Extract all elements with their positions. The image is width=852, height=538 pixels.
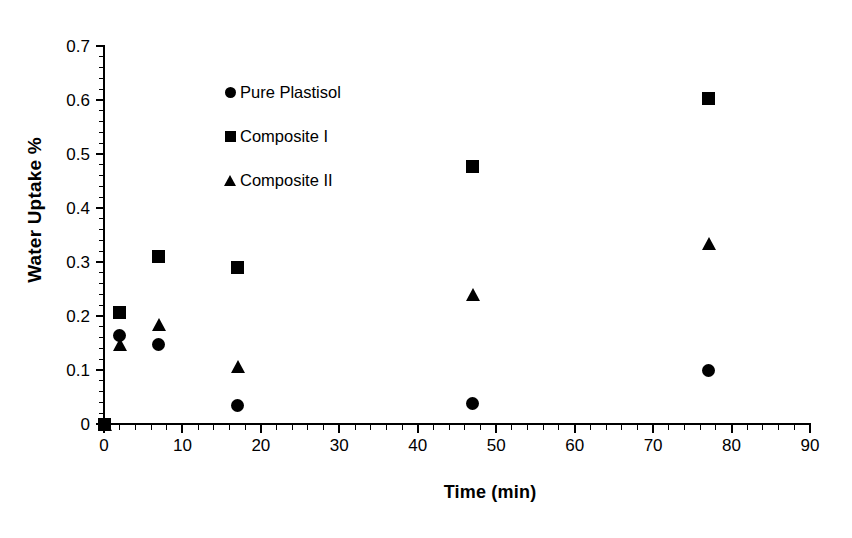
y-axis-minor-tick: [99, 56, 104, 57]
legend-item-label: Pure Plastisol: [240, 83, 341, 102]
x-axis-title: Time (min): [390, 482, 590, 503]
y-axis-tick-label: 0.3: [42, 254, 90, 271]
chart-figure: Water Uptake % Time (min) 00.10.20.30.40…: [0, 0, 852, 538]
y-axis-major-tick: [96, 369, 104, 371]
x-axis-major-tick: [417, 425, 419, 433]
y-axis-major-tick: [96, 315, 104, 317]
x-axis-minor-tick: [323, 425, 324, 430]
x-axis-line: [103, 423, 811, 425]
x-axis-minor-tick: [511, 425, 512, 430]
legend-item[interactable]: Composite II: [222, 158, 341, 202]
x-axis-major-tick: [181, 425, 183, 433]
x-axis-major-tick: [495, 425, 497, 433]
y-axis-minor-tick: [99, 272, 104, 273]
data-point-circle: [231, 399, 244, 412]
y-axis-tick-label: 0.5: [42, 146, 90, 163]
x-axis-tick-label: 40: [395, 437, 441, 454]
data-point-circle: [466, 397, 479, 410]
y-axis-minor-tick: [99, 359, 104, 360]
x-axis-minor-tick: [668, 425, 669, 430]
x-axis-major-tick: [338, 425, 340, 433]
y-axis-minor-tick: [99, 218, 104, 219]
legend-item[interactable]: Composite I: [222, 114, 341, 158]
x-axis-minor-tick: [590, 425, 591, 430]
x-axis-minor-tick: [700, 425, 701, 430]
x-axis-minor-tick: [637, 425, 638, 430]
data-point-square: [152, 250, 165, 263]
x-axis-minor-tick: [433, 425, 434, 430]
x-axis-minor-tick: [480, 425, 481, 430]
x-axis-minor-tick: [449, 425, 450, 430]
y-axis-major-tick: [96, 99, 104, 101]
y-axis-minor-tick: [99, 326, 104, 327]
y-axis-major-tick: [96, 45, 104, 47]
y-axis-minor-tick: [99, 121, 104, 122]
x-axis-major-tick: [652, 425, 654, 433]
x-axis-minor-tick: [198, 425, 199, 430]
y-axis-minor-tick: [99, 283, 104, 284]
y-axis-major-tick: [96, 153, 104, 155]
x-axis-tick-label: 50: [473, 437, 519, 454]
data-point-square: [702, 92, 715, 105]
y-axis-tick-label: 0.2: [42, 308, 90, 325]
y-axis-minor-tick: [99, 175, 104, 176]
y-axis-minor-tick: [99, 348, 104, 349]
x-axis-minor-tick: [213, 425, 214, 430]
legend-item-label: Composite II: [240, 171, 333, 190]
y-axis-tick-label: 0.7: [42, 38, 90, 55]
x-axis-minor-tick: [151, 425, 152, 430]
y-axis-tick-label: 0: [42, 416, 90, 433]
x-axis-tick-label: 0: [81, 437, 127, 454]
y-axis-minor-tick: [99, 110, 104, 111]
x-axis-minor-tick: [355, 425, 356, 430]
legend-item-label: Composite I: [240, 127, 328, 146]
x-axis-minor-tick: [386, 425, 387, 430]
data-point-circle: [152, 338, 165, 351]
x-axis-major-tick: [731, 425, 733, 433]
y-axis-minor-tick: [99, 143, 104, 144]
x-axis-minor-tick: [558, 425, 559, 430]
y-axis-major-tick: [96, 261, 104, 263]
legend-square-icon: [222, 131, 238, 142]
y-axis-tick-label: 0.1: [42, 362, 90, 379]
x-axis-tick-label: 70: [630, 437, 676, 454]
legend-item[interactable]: Pure Plastisol: [222, 70, 341, 114]
x-axis-minor-tick: [119, 425, 120, 430]
x-axis-major-tick: [809, 425, 811, 433]
legend-circle-icon: [222, 87, 238, 98]
y-axis-minor-tick: [99, 294, 104, 295]
x-axis-minor-tick: [747, 425, 748, 430]
y-axis-minor-tick: [99, 380, 104, 381]
y-axis-minor-tick: [99, 229, 104, 230]
x-axis-minor-tick: [762, 425, 763, 430]
y-axis-minor-tick: [99, 240, 104, 241]
x-axis-major-tick: [574, 425, 576, 433]
y-axis-minor-tick: [99, 78, 104, 79]
x-axis-minor-tick: [621, 425, 622, 430]
x-axis-tick-label: 30: [316, 437, 362, 454]
x-axis-minor-tick: [166, 425, 167, 430]
x-axis-minor-tick: [684, 425, 685, 430]
data-point-square: [113, 306, 126, 319]
x-axis-tick-label: 20: [238, 437, 284, 454]
y-axis-tick-label: 0.6: [42, 92, 90, 109]
x-axis-major-tick: [260, 425, 262, 433]
x-axis-minor-tick: [606, 425, 607, 430]
x-axis-minor-tick: [543, 425, 544, 430]
data-point-triangle: [231, 360, 245, 373]
data-point-circle: [702, 364, 715, 377]
data-point-triangle: [98, 418, 112, 431]
y-axis-major-tick: [96, 207, 104, 209]
data-point-square: [466, 160, 479, 173]
y-axis-minor-tick: [99, 186, 104, 187]
x-axis-minor-tick: [778, 425, 779, 430]
x-axis-minor-tick: [715, 425, 716, 430]
chart-legend: Pure PlastisolComposite IComposite II: [222, 70, 341, 202]
y-axis-line: [103, 45, 105, 425]
y-axis-minor-tick: [99, 89, 104, 90]
x-axis-minor-tick: [794, 425, 795, 430]
x-axis-minor-tick: [464, 425, 465, 430]
y-axis-minor-tick: [99, 402, 104, 403]
x-axis-minor-tick: [229, 425, 230, 430]
x-axis-tick-label: 10: [159, 437, 205, 454]
